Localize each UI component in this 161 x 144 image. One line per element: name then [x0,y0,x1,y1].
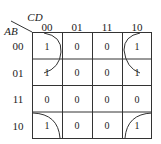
row-label: 10 [6,121,30,132]
row-label: 01 [6,68,30,79]
kmap-cell: 0 [32,94,62,105]
kmap-cell: 0 [62,41,92,52]
kmap-cell: 1 [122,41,152,52]
kmap-cell: 0 [62,120,92,131]
col-label: 10 [122,22,152,33]
kmap-cell: 0 [62,67,92,78]
kmap-cell: 0 [92,67,122,78]
kmap-cell: 1 [32,67,62,78]
kmap-cell: 1 [32,41,62,52]
kmap-cell: 0 [92,41,122,52]
row-label: 00 [6,41,30,52]
kmap-cell: 1 [32,120,62,131]
kmap-cell: 0 [122,94,152,105]
col-label: 11 [92,22,122,33]
col-label: 00 [32,22,62,33]
kmap-cell: 1 [122,67,152,78]
row-label: 11 [6,94,30,105]
row-variable-label: AB [2,26,20,37]
col-label: 01 [62,22,92,33]
kmap-cell: 0 [92,120,122,131]
kmap-cell: 1 [122,120,152,131]
kmap-cell: 0 [92,94,122,105]
kmap-cell: 0 [62,94,92,105]
